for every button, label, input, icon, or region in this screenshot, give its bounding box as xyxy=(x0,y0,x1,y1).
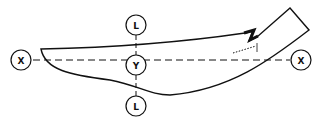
y-center-marker: Y xyxy=(126,55,146,75)
x-left-marker: X xyxy=(11,50,31,70)
x-left-label: X xyxy=(18,56,25,66)
l-bottom-marker: L xyxy=(126,96,146,116)
diagram-canvas: X X L Y L xyxy=(0,0,322,131)
l-top-label: L xyxy=(133,21,139,31)
l-top-marker: L xyxy=(126,15,146,35)
y-center-label: Y xyxy=(132,61,140,71)
x-right-marker: X xyxy=(291,50,311,70)
l-bottom-label: L xyxy=(133,102,139,112)
notch-detail xyxy=(244,30,258,40)
profile-outline xyxy=(41,8,309,95)
dotted-reference-line xyxy=(233,46,256,53)
x-right-label: X xyxy=(298,56,305,66)
